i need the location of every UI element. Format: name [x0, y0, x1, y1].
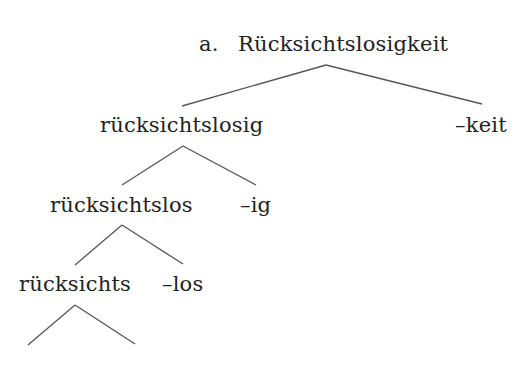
edge-root-right	[326, 65, 482, 104]
example-label: a.	[199, 34, 219, 55]
edge-root-left	[182, 65, 326, 106]
morphology-tree-diagram: a. Rücksichtslosigkeit rücksichtslosig –…	[0, 0, 526, 380]
node-keit-suffix: –keit	[455, 115, 507, 136]
root-node: Rücksichtslosigkeit	[238, 34, 448, 55]
edge-l3-left	[28, 305, 75, 345]
node-rucksichts: rücksichts	[19, 274, 131, 295]
tree-edges	[0, 0, 526, 380]
node-rucksichtslosig: rücksichtslosig	[100, 115, 263, 136]
edge-l1-right	[183, 146, 256, 185]
node-ig-suffix: –ig	[240, 195, 271, 216]
edge-l2-left	[75, 225, 122, 265]
node-rucksichtslos: rücksichtslos	[50, 195, 193, 216]
edge-l1-left	[122, 146, 183, 185]
node-los-suffix: –los	[162, 274, 203, 295]
edge-l2-right	[122, 225, 183, 264]
edge-l3-right	[75, 305, 135, 344]
